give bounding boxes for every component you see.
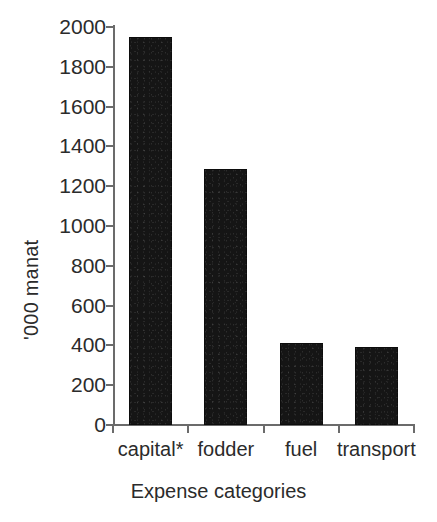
x-axis-tick-mark: [112, 425, 114, 433]
x-axis-tick-mark: [338, 425, 340, 433]
y-axis-tick-label: 600: [46, 295, 106, 316]
y-axis-tick-label: 1600: [46, 96, 106, 117]
y-axis-tick-label: 1000: [46, 215, 106, 236]
x-axis-title: Expense categories: [0, 478, 437, 504]
y-axis-tick-label: 200: [46, 374, 106, 395]
x-axis-tick-mark: [413, 425, 415, 433]
bar: [280, 343, 323, 425]
y-axis-tick-label: 400: [46, 334, 106, 355]
bar: [355, 347, 398, 425]
x-axis-category-labels: capital*fodderfueltransport: [0, 436, 437, 466]
bar: [204, 169, 247, 425]
plot-area: [113, 27, 414, 425]
x-axis-tick-mark: [187, 425, 189, 433]
x-axis-category-label: transport: [316, 436, 436, 462]
bar-chart: '000 manat 02004006008001000120014001600…: [0, 0, 437, 522]
x-axis-tick-mark: [263, 425, 265, 433]
y-axis-tick-label: 1400: [46, 135, 106, 156]
bar: [129, 37, 172, 425]
y-axis-tick-label: 2000: [46, 16, 106, 37]
y-axis-tick-label: 800: [46, 255, 106, 276]
y-axis-tick-label: 0: [46, 414, 106, 435]
y-axis-tick-label: 1200: [46, 175, 106, 196]
y-axis-tick-label: 1800: [46, 56, 106, 77]
